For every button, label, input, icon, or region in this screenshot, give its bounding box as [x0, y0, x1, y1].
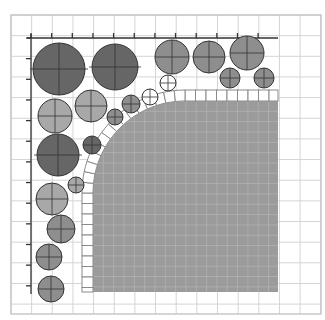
- plant-symbol: [36, 183, 68, 215]
- plant-symbol: [34, 134, 82, 176]
- brick: [259, 90, 270, 101]
- brick: [82, 235, 93, 246]
- brick: [82, 204, 93, 215]
- plant-symbol: [68, 177, 84, 193]
- brick: [164, 91, 176, 103]
- garden-plan-diagram: [0, 0, 325, 320]
- plant-symbol: [107, 109, 123, 125]
- plant-symbol: [155, 40, 189, 74]
- brick: [82, 256, 93, 267]
- brick: [82, 193, 93, 204]
- brick: [82, 267, 93, 278]
- brick: [269, 90, 278, 101]
- plant-symbol: [160, 75, 176, 91]
- plant-symbol: [30, 43, 88, 95]
- plant-symbol: [75, 90, 107, 122]
- plant-symbol: [38, 99, 72, 133]
- brick: [206, 90, 217, 101]
- brick: [248, 90, 259, 101]
- plant-symbol: [38, 276, 64, 302]
- plant-symbol: [230, 36, 264, 70]
- brick: [174, 90, 185, 102]
- plant-symbol: [122, 95, 140, 113]
- brick: [82, 277, 93, 288]
- brick: [82, 288, 93, 293]
- plant-symbol: [89, 44, 141, 90]
- plant-symbol: [83, 136, 101, 154]
- brick: [82, 246, 93, 257]
- brick: [196, 90, 207, 101]
- plant-symbol: [36, 244, 62, 270]
- brick: [185, 90, 196, 101]
- brick: [82, 214, 93, 225]
- brick: [217, 90, 228, 101]
- brick: [82, 225, 93, 236]
- plant-symbol: [142, 89, 158, 105]
- brick: [238, 90, 249, 101]
- plant-symbol: [220, 68, 240, 88]
- brick: [227, 90, 238, 101]
- plant-symbol: [47, 215, 75, 243]
- plant-symbol: [254, 68, 274, 88]
- plant-symbol: [193, 41, 225, 73]
- planting-bed: [93, 101, 278, 292]
- bed-fill: [93, 101, 278, 292]
